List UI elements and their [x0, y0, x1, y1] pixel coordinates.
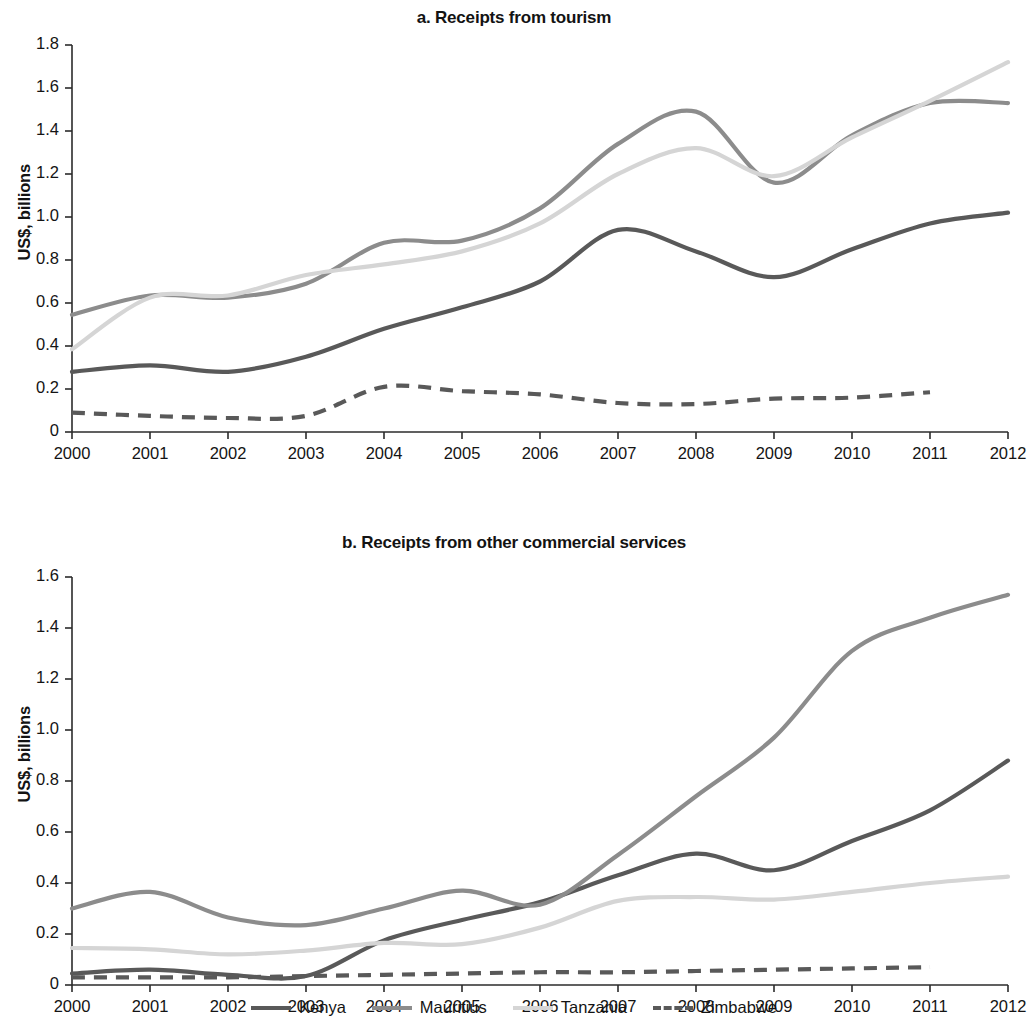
y-tick-label: 1.6: [9, 77, 59, 96]
y-tick-label: 0.2: [9, 923, 59, 942]
y-tick-label: 0.8: [9, 770, 59, 789]
chart-legend: KenyaMauritiusTanzaniaZimbabwe: [0, 998, 1028, 1017]
y-tick-label: 0.4: [9, 872, 59, 891]
panel-a-plot-area: [72, 45, 1008, 432]
legend-item-tanzania: Tanzania: [513, 998, 627, 1017]
legend-label: Tanzania: [561, 998, 627, 1017]
dashed-line-swatch-icon: [653, 1006, 693, 1010]
y-tick-label: 1.4: [9, 120, 59, 139]
y-tick-label: 1.2: [9, 163, 59, 182]
legend-label: Mauritius: [420, 998, 487, 1017]
y-tick-label: 1.0: [9, 719, 59, 738]
x-tick-label: 2010: [817, 444, 887, 463]
panel-a-title: a. Receipts from tourism: [0, 8, 1028, 28]
y-tick-label: 1.6: [9, 566, 59, 585]
x-tick-label: 2000: [37, 444, 107, 463]
x-tick-label: 2006: [505, 444, 575, 463]
y-tick-label: 0.2: [9, 378, 59, 397]
x-axis-ticks: [72, 432, 1008, 439]
x-tick-label: 2011: [895, 444, 965, 463]
legend-item-kenya: Kenya: [251, 998, 346, 1017]
series-line-tanzania: [72, 877, 1008, 955]
x-tick-label: 2009: [739, 444, 809, 463]
line-swatch-icon: [251, 1006, 291, 1010]
panel-b-plot-area: [72, 577, 1008, 985]
x-tick-label: 2005: [427, 444, 497, 463]
y-tick-label: 0.4: [9, 335, 59, 354]
x-tick-label: 2007: [583, 444, 653, 463]
x-tick-label: 2004: [349, 444, 419, 463]
y-tick-label: 1.2: [9, 668, 59, 687]
tourism-and-services-receipts-figure: a. Receipts from tourism US$, billions 0…: [0, 0, 1028, 1028]
x-tick-label: 2008: [661, 444, 731, 463]
series-line-kenya: [72, 761, 1008, 979]
line-swatch-icon: [372, 1006, 412, 1010]
y-tick-label: 0: [9, 974, 59, 993]
x-tick-label: 2012: [973, 444, 1028, 463]
x-axis-ticks: [72, 985, 1008, 992]
x-tick-label: 2002: [193, 444, 263, 463]
legend-label: Kenya: [299, 998, 346, 1017]
axis-lines: [72, 577, 1008, 985]
y-tick-label: 0: [9, 421, 59, 440]
y-axis-ticks: [65, 45, 72, 432]
axis-lines: [72, 45, 1008, 432]
y-tick-label: 1.0: [9, 206, 59, 225]
legend-item-mauritius: Mauritius: [372, 998, 487, 1017]
y-tick-label: 0.8: [9, 249, 59, 268]
legend-label: Zimbabwe: [701, 998, 777, 1017]
chart-panel-b: b. Receipts from other commercial servic…: [0, 515, 1028, 1028]
y-tick-label: 1.4: [9, 617, 59, 636]
series-line-tanzania: [72, 62, 1008, 349]
series-line-mauritius: [72, 595, 1008, 926]
panel-b-title: b. Receipts from other commercial servic…: [0, 533, 1028, 553]
x-tick-label: 2001: [115, 444, 185, 463]
y-axis-ticks: [65, 577, 72, 985]
series-line-zimbabwe: [72, 386, 930, 419]
x-tick-label: 2003: [271, 444, 341, 463]
y-tick-label: 1.8: [9, 34, 59, 53]
y-tick-label: 0.6: [9, 292, 59, 311]
line-swatch-icon: [513, 1006, 553, 1010]
chart-panel-a: a. Receipts from tourism US$, billions 0…: [0, 0, 1028, 500]
series-line-kenya: [72, 213, 1008, 372]
y-tick-label: 0.6: [9, 821, 59, 840]
legend-item-zimbabwe: Zimbabwe: [653, 998, 777, 1017]
